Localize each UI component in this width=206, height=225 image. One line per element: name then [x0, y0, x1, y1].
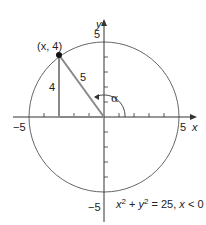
equation-label: x2 + y2 = 25, x < 0 [115, 197, 204, 210]
x-neg-tick-label: −5 [13, 121, 26, 133]
vertical-side-label: 4 [49, 81, 55, 93]
point-marker [56, 52, 62, 58]
diagram-canvas: y 5 −5 −5 5 x (x, 4) 4 5 α x2 + y2 = 25,… [0, 0, 206, 225]
x-pos-tick-label: 5 [180, 121, 186, 133]
angle-arc [95, 95, 125, 117]
hypotenuse-label: 5 [80, 71, 86, 83]
x-axis-label: x [191, 121, 198, 133]
reference-triangle [59, 55, 104, 117]
y-axis-arrow-icon [101, 19, 107, 26]
y-neg-tick-label: −5 [88, 201, 101, 213]
x-axis-arrow-icon [190, 114, 197, 120]
point-label: (x, 4) [37, 40, 62, 52]
y-pos-tick-label: 5 [94, 28, 100, 40]
angle-arrow-icon [94, 94, 99, 100]
angle-label: α [111, 92, 119, 105]
